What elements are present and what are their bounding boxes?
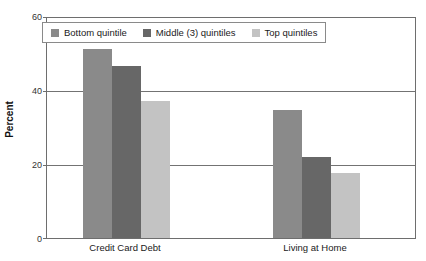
legend: Bottom quintile Middle (3) quintiles Top… (42, 22, 326, 43)
y-tick-label-40: 40 (16, 87, 42, 96)
y-tick-label-20: 20 (16, 161, 42, 170)
tick-mark-40 (43, 91, 47, 92)
tick-mark-0 (43, 238, 47, 239)
bar-credit-card-debt-top-quintiles (141, 101, 170, 238)
x-axis-category-labels: Credit Card Debt Living at Home (46, 243, 416, 259)
y-axis-title-text: Percent (4, 101, 15, 138)
bar-credit-card-debt-middle-quintiles (112, 66, 141, 238)
legend-label-bottom-quintile: Bottom quintile (64, 28, 127, 38)
y-tick-label-0: 0 (16, 235, 42, 244)
legend-swatch-bottom-quintile-icon (51, 29, 59, 37)
legend-label-top-quintiles: Top quintiles (265, 28, 318, 38)
y-axis-tick-labels: 60 40 20 0 (18, 0, 44, 261)
legend-swatch-middle-quintiles-icon (143, 29, 151, 37)
y-axis-title: Percent (0, 0, 18, 239)
bar-living-at-home-middle-quintiles (302, 157, 331, 238)
tick-mark-20 (43, 165, 47, 166)
legend-label-middle-quintiles: Middle (3) quintiles (156, 28, 236, 38)
bar-living-at-home-bottom-quintile (273, 110, 302, 238)
legend-swatch-top-quintiles-icon (252, 29, 260, 37)
x-label-living-at-home: Living at Home (283, 243, 346, 253)
x-label-credit-card-debt: Credit Card Debt (89, 243, 160, 253)
legend-item-top-quintiles: Top quintiles (252, 28, 318, 38)
bar-credit-card-debt-bottom-quintile (83, 49, 112, 238)
legend-item-bottom-quintile: Bottom quintile (51, 28, 127, 38)
legend-item-middle-quintiles: Middle (3) quintiles (143, 28, 236, 38)
tick-mark-60 (43, 17, 47, 18)
y-tick-label-60: 60 (16, 13, 42, 22)
bar-chart: Percent 60 40 20 0 Bottom quintile (0, 0, 426, 261)
bar-living-at-home-top-quintiles (331, 173, 360, 238)
plot-area (46, 17, 416, 239)
